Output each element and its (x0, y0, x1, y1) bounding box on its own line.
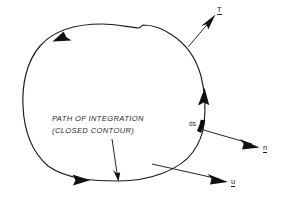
velocity-vector-shaft (152, 164, 219, 179)
tangent-vector-arrowhead-icon (201, 15, 216, 30)
caption-leader-line (112, 139, 118, 177)
velocity-vector-label: u (231, 178, 235, 187)
direction-arrow-bottom-icon (73, 175, 91, 186)
velocity-vector-arrowhead-icon (208, 174, 229, 184)
arc-element-label: ds (189, 121, 196, 128)
closed-contour-path (23, 24, 205, 181)
tangent-vector-label: T (217, 6, 222, 15)
arc-element-segment (199, 120, 203, 132)
caption-line-1: PATH OF INTEGRATION (52, 113, 144, 125)
caption-line-2: (CLOSED CONTOUR) (52, 125, 144, 137)
contour-svg (0, 0, 283, 202)
normal-vector-arrowhead-icon (240, 139, 260, 150)
diagram-canvas: T n u ds PATH OF INTEGRATION (CLOSED CON… (0, 0, 283, 202)
normal-vector-label: n (263, 144, 267, 153)
caption-block: PATH OF INTEGRATION (CLOSED CONTOUR) (52, 113, 144, 136)
direction-arrow-top-icon (53, 32, 72, 42)
direction-arrow-right-icon (198, 88, 209, 106)
